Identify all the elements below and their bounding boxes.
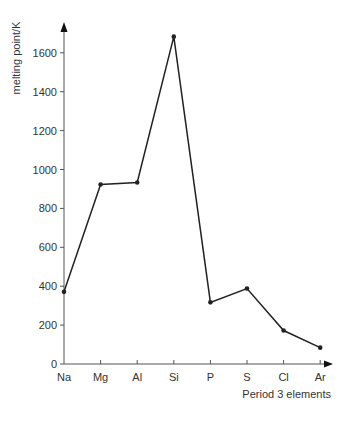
x-tick-label: Al (132, 371, 142, 383)
y-tick-label: 1200 (33, 125, 57, 137)
data-point-marker (172, 34, 177, 39)
data-point-marker (318, 345, 323, 350)
y-tick-label: 600 (39, 241, 57, 253)
x-tick-label: Na (57, 371, 72, 383)
y-axis-title: melting point/K (10, 21, 22, 94)
x-tick-label: Si (169, 371, 179, 383)
y-tick-label: 1600 (33, 47, 57, 59)
x-axis-arrow-icon (324, 361, 333, 368)
y-tick-label: 800 (39, 202, 57, 214)
y-tick-label: 1000 (33, 164, 57, 176)
data-point-marker (281, 328, 286, 333)
data-point-marker (245, 286, 250, 291)
y-tick-label: 0 (51, 358, 57, 370)
x-tick-label: P (207, 371, 214, 383)
x-axis-ticks: NaMgAlSiPSClAr (57, 360, 326, 383)
x-tick-label: Ar (315, 371, 326, 383)
y-axis-arrow-icon (61, 22, 68, 32)
y-tick-label: 1400 (33, 86, 57, 98)
data-series (62, 34, 323, 350)
x-tick-label: Cl (278, 371, 288, 383)
y-tick-label: 200 (39, 319, 57, 331)
data-point-marker (135, 180, 140, 185)
x-tick-label: Mg (93, 371, 108, 383)
x-tick-label: S (243, 371, 250, 383)
y-axis-ticks: 02004006008001000120014001600 (33, 47, 64, 370)
y-tick-label: 400 (39, 280, 57, 292)
melting-point-line (64, 37, 320, 348)
data-point-marker (208, 300, 213, 305)
data-point-marker (62, 290, 67, 295)
axes (61, 22, 334, 368)
melting-point-chart: 02004006008001000120014001600 NaMgAlSiPS… (0, 0, 348, 423)
x-axis-title: Period 3 elements (242, 388, 331, 400)
data-point-marker (98, 182, 103, 187)
